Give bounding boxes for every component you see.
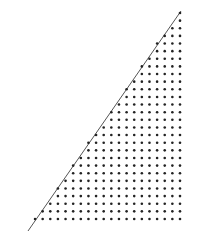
grid-dot [141, 187, 144, 190]
grid-dot [141, 65, 144, 68]
grid-dot [163, 73, 166, 76]
grid-dot [80, 195, 83, 198]
grid-dot [163, 119, 166, 122]
grid-dot [179, 134, 182, 137]
grid-dot [125, 126, 128, 129]
grid-dot [95, 180, 98, 183]
grid-dot [163, 134, 166, 137]
grid-dot [156, 73, 159, 76]
grid-dot [141, 210, 144, 213]
grid-dot [125, 119, 128, 122]
grid-dot [110, 195, 113, 198]
grid-dot [49, 210, 52, 213]
grid-dot [179, 88, 182, 91]
grid-dot [156, 57, 159, 60]
grid-dot [171, 157, 174, 160]
grid-dot [171, 126, 174, 129]
grid-dot [118, 134, 121, 137]
dotted-triangle-diagram [0, 0, 204, 234]
grid-dot [156, 42, 159, 45]
grid-dot [95, 157, 98, 160]
grid-dot [171, 111, 174, 114]
grid-dot [171, 42, 174, 45]
grid-dot [156, 96, 159, 99]
grid-dot [80, 202, 83, 205]
grid-dot [156, 65, 159, 68]
grid-dot [118, 172, 121, 175]
grid-dot [118, 103, 121, 106]
grid-dot [125, 157, 128, 160]
grid-dot [148, 172, 151, 175]
grid-dot [118, 141, 121, 144]
grid-dot [41, 210, 44, 213]
grid-dot [95, 210, 98, 213]
grid-dot [148, 103, 151, 106]
grid-dot [133, 202, 136, 205]
grid-dot [133, 210, 136, 213]
grid-dot [41, 218, 44, 221]
grid-dot [95, 141, 98, 144]
grid-dot [141, 141, 144, 144]
grid-dot [125, 187, 128, 190]
grid-dot [179, 126, 182, 129]
grid-dot [125, 202, 128, 205]
grid-dot [87, 149, 90, 152]
grid-dot [64, 210, 67, 213]
grid-dot [171, 164, 174, 167]
grid-dot [156, 187, 159, 190]
grid-dot [171, 50, 174, 53]
grid-dot [102, 157, 105, 160]
grid-dot [110, 164, 113, 167]
grid-dot [125, 149, 128, 152]
grid-dot [171, 210, 174, 213]
grid-dot [64, 187, 67, 190]
grid-dot [141, 164, 144, 167]
grid-dot [163, 103, 166, 106]
grid-dot [110, 149, 113, 152]
grid-dot [163, 195, 166, 198]
grid-dot [171, 103, 174, 106]
grid-dot [133, 164, 136, 167]
grid-dot [80, 157, 83, 160]
grid-dot [133, 172, 136, 175]
grid-dot [148, 218, 151, 221]
grid-dot [179, 218, 182, 221]
grid-dot [171, 35, 174, 38]
grid-dot [171, 65, 174, 68]
grid-dot [125, 141, 128, 144]
grid-dot [133, 103, 136, 106]
grid-dot [80, 210, 83, 213]
grid-dot [133, 218, 136, 221]
grid-dot [110, 126, 113, 129]
grid-dot [156, 88, 159, 91]
grid-dot [72, 187, 75, 190]
grid-dot [118, 164, 121, 167]
grid-dot [125, 164, 128, 167]
grid-dot [118, 111, 121, 114]
grid-dot [148, 195, 151, 198]
grid-dot [163, 172, 166, 175]
grid-dot [133, 96, 136, 99]
grid-dot [171, 180, 174, 183]
grid-dot [72, 202, 75, 205]
grid-dot [163, 164, 166, 167]
grid-dot [179, 80, 182, 83]
grid-dot [133, 141, 136, 144]
grid-dot [156, 157, 159, 160]
grid-dot [163, 111, 166, 114]
grid-dot [110, 210, 113, 213]
grid-dot [72, 195, 75, 198]
grid-dot [179, 57, 182, 60]
grid-dot [57, 195, 60, 198]
grid-dot [141, 157, 144, 160]
grid-dot [163, 50, 166, 53]
grid-dot [179, 50, 182, 53]
grid-dot [148, 164, 151, 167]
grid-dot [179, 35, 182, 38]
grid-dot [80, 187, 83, 190]
grid-dot [125, 218, 128, 221]
grid-dot [64, 180, 67, 183]
grid-dot [156, 195, 159, 198]
grid-dot [163, 35, 166, 38]
grid-dot [141, 126, 144, 129]
